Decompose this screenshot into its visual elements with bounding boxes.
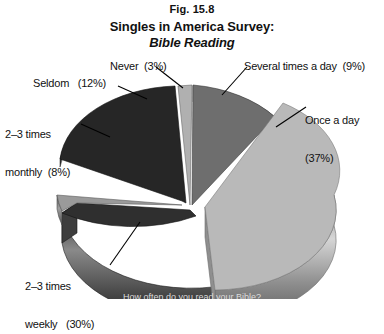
- figure-number: Fig. 15.8: [0, 3, 384, 15]
- slice-top-seldom: [60, 86, 186, 203]
- figure-subtitle: Bible Reading: [0, 35, 384, 50]
- slice-label-weekly-line2: weekly (30%): [25, 318, 94, 331]
- slice-label-monthly-line2: monthly (8%): [5, 166, 70, 179]
- slice-label-monthly-line1: 2–3 times: [5, 128, 70, 141]
- figure-title: Singles in America Survey:: [0, 19, 384, 34]
- leader-line-weekly: [110, 222, 140, 265]
- slice-label-once-a-day-line2: (37%): [305, 152, 359, 165]
- slice-label-never: Never (3%): [110, 60, 166, 73]
- slice-label-weekly-line1: 2–3 times: [25, 280, 94, 293]
- slice-label-several-times-a-day: Several times a day (9%): [244, 60, 365, 73]
- slice-label-monthly: 2–3 times monthly (8%): [5, 103, 70, 203]
- slice-top-weekly: [62, 203, 196, 227]
- slice-label-once-a-day: Once a day (37%): [305, 89, 359, 189]
- slice-label-once-a-day-line1: Once a day: [305, 114, 359, 127]
- slice-label-seldom: Seldom (12%): [33, 77, 106, 90]
- bottom-cutoff-text: How often do you read your Bible?: [0, 292, 384, 299]
